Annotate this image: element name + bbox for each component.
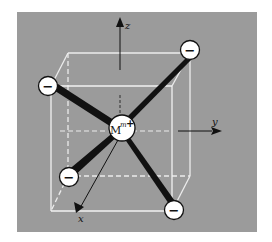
ligand-top-left: − bbox=[39, 77, 58, 96]
ligand-bottom-right: − bbox=[165, 201, 184, 220]
ligand-sign: − bbox=[169, 203, 180, 218]
metal-charge-sign: + bbox=[126, 118, 134, 129]
central-metal-ion: M m + bbox=[109, 115, 135, 141]
diagram-background bbox=[17, 12, 257, 232]
z-axis-label: z bbox=[124, 20, 131, 31]
ligand-sign: − bbox=[64, 170, 75, 185]
ligand-sign: − bbox=[185, 43, 196, 58]
ligand-sign: − bbox=[43, 79, 54, 94]
x-axis-label: x bbox=[78, 213, 84, 224]
ligand-top-right: − bbox=[181, 41, 200, 60]
y-axis-label: y bbox=[211, 116, 218, 127]
ligand-middle-left: − bbox=[60, 168, 79, 187]
octahedral-complex-diagram: z y x − − − − M m + bbox=[0, 0, 272, 242]
